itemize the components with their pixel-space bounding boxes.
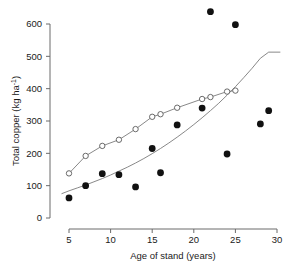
- x-axis-tick-label: 10: [105, 234, 116, 245]
- data-point-filled: [157, 169, 164, 176]
- data-point-filled: [66, 195, 73, 202]
- y-axis-tick-label: 100: [26, 180, 42, 191]
- figure-container: 010020030040050060051015202530Age of sta…: [0, 0, 295, 266]
- series-open-circles: [66, 88, 238, 176]
- data-point-open: [224, 89, 229, 94]
- data-point-open: [116, 137, 121, 142]
- data-point-filled: [132, 184, 139, 191]
- y-axis-tick-label: 500: [26, 51, 42, 62]
- y-axis-title-text: Total copper (kg ha-1): [10, 76, 21, 166]
- data-point-filled: [232, 21, 239, 28]
- x-axis-tick-label: 25: [230, 234, 241, 245]
- data-point-open: [100, 143, 105, 148]
- series-filled-circles: [66, 8, 272, 201]
- y-axis-tick-label: 300: [26, 115, 42, 126]
- data-point-open: [66, 171, 71, 176]
- data-point-open: [199, 96, 204, 101]
- y-axis-tick-label: 0: [37, 212, 42, 223]
- data-point-filled: [82, 182, 89, 189]
- x-axis-tick-label: 5: [66, 234, 71, 245]
- x-axis-tick-label: 30: [272, 234, 283, 245]
- x-axis-tick-label: 15: [147, 234, 158, 245]
- y-axis-tick-label: 400: [26, 83, 42, 94]
- y-axis-title: Total copper (kg ha-1): [10, 76, 21, 166]
- data-point-filled: [265, 107, 272, 114]
- series-connecting-line: [69, 91, 235, 174]
- data-point-open: [233, 88, 238, 93]
- scatter-plot: 010020030040050060051015202530Age of sta…: [0, 0, 295, 266]
- data-point-filled: [99, 170, 106, 177]
- data-point-filled: [224, 151, 231, 158]
- data-point-filled: [207, 8, 214, 15]
- data-point-filled: [257, 121, 264, 128]
- data-point-filled: [116, 171, 123, 178]
- data-point-open: [133, 126, 138, 131]
- y-axis-tick-label: 200: [26, 148, 42, 159]
- data-point-filled: [149, 145, 156, 152]
- data-point-open: [83, 153, 88, 158]
- x-axis-tick-label: 20: [189, 234, 200, 245]
- data-point-open: [174, 105, 179, 110]
- fitted-curve: [62, 52, 281, 194]
- data-point-open: [158, 112, 163, 117]
- data-point-filled: [199, 105, 206, 112]
- y-axis-tick-label: 600: [26, 18, 42, 29]
- data-point-open: [208, 94, 213, 99]
- x-axis-title: Age of stand (years): [130, 250, 216, 261]
- data-point-open: [150, 114, 155, 119]
- data-point-filled: [174, 121, 181, 128]
